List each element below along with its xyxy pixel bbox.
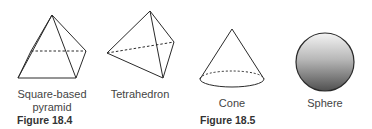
tetrahedron-drawing — [107, 11, 174, 78]
figure-caption-18-5: Figure 18.5 — [200, 114, 255, 126]
lateral-edge — [52, 15, 76, 78]
side-edges — [150, 11, 174, 78]
lateral-edge — [31, 15, 52, 51]
hidden-base-arc — [200, 71, 264, 79]
sphere-drawing — [296, 33, 354, 91]
pyramid-label-line1: Square-based — [12, 88, 92, 101]
visible-base-arc — [200, 79, 264, 87]
tetrahedron-label: Tetrahedron — [100, 88, 180, 101]
front-face — [107, 11, 163, 78]
cone-side — [232, 29, 264, 79]
lateral-edge — [52, 15, 86, 51]
cone-label: Cone — [202, 97, 262, 110]
pyramid-label-line2: pyramid — [12, 101, 92, 114]
base-edges — [18, 51, 86, 78]
figure-caption-18-4: Figure 18.4 — [17, 114, 72, 126]
sphere-label: Sphere — [295, 97, 355, 110]
cone-drawing — [200, 29, 264, 87]
square-based-pyramid-drawing — [18, 15, 86, 78]
